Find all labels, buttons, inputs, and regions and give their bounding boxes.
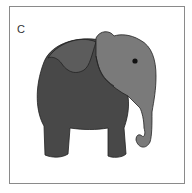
elephant-eye [132,58,137,63]
elephant-icon [0,0,192,193]
